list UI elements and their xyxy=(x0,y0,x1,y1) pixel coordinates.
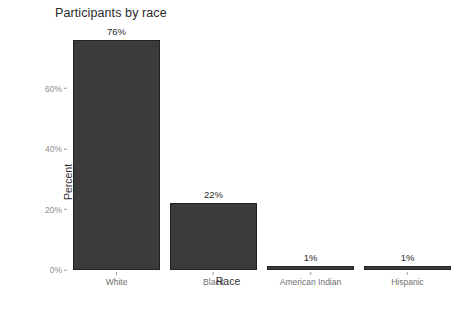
x-axis-title: Race xyxy=(0,275,456,287)
bar-value-label: 1% xyxy=(401,253,415,263)
plot-panel: Percent 0%20%40%60%76%White22%Black1%Ame… xyxy=(68,28,456,270)
y-axis-tick-label: 40% xyxy=(45,145,62,154)
y-axis-tick-mark xyxy=(64,88,67,89)
bar-value-label: 22% xyxy=(204,190,223,200)
y-axis-tick: 40% xyxy=(45,145,68,154)
chart-title: Participants by race xyxy=(55,6,167,20)
y-axis-tick: 0% xyxy=(50,266,68,275)
bar-value-label: 1% xyxy=(304,253,318,263)
y-axis-tick-label: 0% xyxy=(50,266,62,275)
bar[interactable] xyxy=(170,203,257,270)
y-axis-tick: 20% xyxy=(45,205,68,214)
bar[interactable] xyxy=(73,40,160,270)
bar-chart: Participants by race Percent 0%20%40%60%… xyxy=(0,0,456,321)
bar-value-label: 76% xyxy=(107,27,126,37)
y-axis-tick-mark xyxy=(64,149,67,150)
y-axis-tick-label: 20% xyxy=(45,205,62,214)
y-axis-tick-mark xyxy=(64,209,67,210)
y-axis-tick-label: 60% xyxy=(45,84,62,93)
y-axis-tick: 60% xyxy=(45,84,68,93)
y-axis-tick-mark xyxy=(64,270,67,271)
